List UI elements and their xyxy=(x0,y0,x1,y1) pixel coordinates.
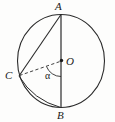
geometry-figure: A B C O α xyxy=(0,0,115,122)
point-label-a: A xyxy=(55,1,62,12)
center-point-dot xyxy=(60,59,63,62)
point-label-b: B xyxy=(57,110,64,121)
geometry-canvas xyxy=(0,0,115,122)
angle-label-alpha: α xyxy=(45,71,50,81)
segment-chord-ac xyxy=(19,15,61,77)
point-label-o: O xyxy=(66,56,74,67)
point-label-c: C xyxy=(5,70,12,81)
segment-radius-co xyxy=(20,62,61,76)
segment-chord-cb xyxy=(19,76,61,108)
